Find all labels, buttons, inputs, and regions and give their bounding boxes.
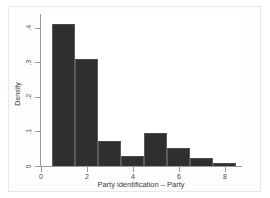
y-tick-mark [35, 62, 40, 63]
x-axis-title: Party identification – Party [41, 180, 241, 189]
y-tick-label-text: 0 [25, 164, 32, 168]
y-tick-label: .1 [22, 127, 35, 136]
histogram-bar [52, 24, 75, 166]
y-axis-title-text: Density [14, 82, 22, 105]
y-tick-label-text: .3 [25, 60, 32, 65]
histogram-bar [144, 133, 167, 166]
y-tick-label: .4 [22, 23, 35, 32]
histogram-bar [121, 156, 144, 166]
y-axis-title: Density [13, 74, 23, 114]
plot-area [41, 14, 241, 166]
histogram-bar [75, 59, 98, 166]
histogram-bar [167, 148, 190, 166]
histogram-bar [190, 158, 213, 166]
bars-container [41, 14, 241, 166]
x-axis-line [40, 166, 242, 167]
y-tick-mark [35, 28, 40, 29]
y-tick-mark [35, 131, 40, 132]
y-tick-label: .3 [22, 58, 35, 67]
histogram-bar [98, 141, 121, 166]
y-axis-line [40, 14, 41, 167]
y-tick-label: 0 [22, 162, 35, 171]
y-tick-label: .2 [22, 92, 35, 101]
y-tick-label-text: .2 [25, 94, 32, 99]
y-tick-label-text: .1 [25, 129, 32, 134]
histogram-figure: 0.1.2.3.4 02468 Density Party identifica… [0, 0, 270, 198]
y-tick-label-text: .4 [25, 25, 32, 30]
y-tick-mark [35, 97, 40, 98]
y-tick-mark [35, 166, 40, 167]
